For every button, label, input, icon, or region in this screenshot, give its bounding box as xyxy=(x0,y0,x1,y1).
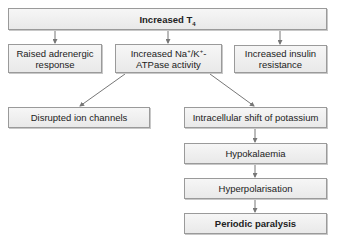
box-increased-atpase-activity: Increased Na+/K+-ATPase activity xyxy=(115,44,222,73)
box-hypokalaemia: Hypokalaemia xyxy=(184,143,327,164)
label-increased-t4: Increased T4 xyxy=(139,14,195,25)
box-increased-t4: Increased T4 xyxy=(8,8,327,30)
label-atpase: Increased Na+/K+-ATPase activity xyxy=(118,48,219,70)
arrow-atpase-to-ion-channels xyxy=(80,74,125,106)
box-periodic-paralysis: Periodic paralysis xyxy=(184,213,327,234)
box-hyperpolarisation: Hyperpolarisation xyxy=(184,178,327,199)
box-increased-insulin-resistance: Increased insulin resistance xyxy=(234,45,327,73)
box-disrupted-ion-channels: Disrupted ion channels xyxy=(8,107,150,128)
arrow-atpase-to-intracellular-shift xyxy=(210,74,254,106)
box-raised-adrenergic-response: Raised adrenergic response xyxy=(8,44,102,73)
box-intracellular-shift-of-potassium: Intracellular shift of potassium xyxy=(184,107,327,128)
